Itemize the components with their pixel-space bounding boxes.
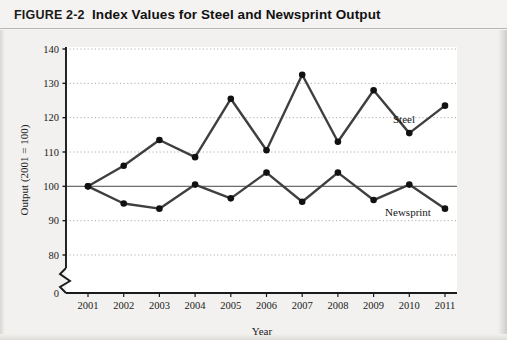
data-point-newsprint-2008	[335, 169, 342, 176]
y-axis-group: 08090100110120130140	[43, 44, 70, 299]
x-tick-label: 2003	[149, 300, 170, 311]
y-tick-label: 100	[43, 181, 59, 192]
data-point-steel-2005	[228, 95, 235, 102]
data-point-newsprint-2009	[370, 197, 377, 204]
figure-page: FIGURE 2-2 Index Values for Steel and Ne…	[0, 0, 507, 340]
y-axis-title: Output (2001 = 100)	[18, 124, 31, 215]
data-point-steel-2008	[335, 138, 342, 145]
title-divider	[0, 28, 507, 29]
figure-title-text: Index Values for Steel and Newsprint Out…	[92, 7, 381, 22]
x-tick-label: 2010	[399, 300, 420, 311]
x-axis-title: Year	[252, 325, 273, 337]
data-point-steel-2011	[442, 102, 449, 109]
x-tick-label: 2002	[113, 300, 134, 311]
x-axis-group: 2001200220032004200520062007200820092010…	[66, 293, 457, 311]
x-tick-label: 2001	[78, 300, 99, 311]
y-tick-label: 110	[44, 147, 59, 158]
x-tick-label: 2004	[185, 300, 207, 311]
series-group	[85, 71, 449, 212]
line-chart: 08090100110120130140 2001200220032004200…	[0, 30, 507, 340]
x-tick-label: 2011	[435, 300, 456, 311]
axis-break-symbol	[60, 268, 70, 293]
data-point-steel-2003	[156, 137, 163, 144]
data-point-steel-2007	[299, 71, 306, 78]
x-tick-label: 2005	[220, 300, 241, 311]
data-point-newsprint-2004	[192, 181, 199, 188]
y-tick-label: 130	[43, 78, 59, 89]
data-point-steel-2009	[370, 87, 377, 94]
x-tick-label: 2007	[292, 300, 313, 311]
data-point-steel-2004	[192, 154, 199, 161]
series-label-newsprint: Newsprint	[385, 206, 431, 218]
x-tick-label: 2008	[327, 300, 348, 311]
data-point-newsprint-2006	[263, 169, 270, 176]
data-point-newsprint-2001	[85, 183, 92, 190]
data-point-newsprint-2010	[406, 181, 413, 188]
y-tick-label: 90	[49, 215, 60, 226]
y-tick-label: 0	[54, 288, 59, 299]
series-label-steel: Steel	[393, 113, 415, 125]
data-point-steel-2006	[263, 147, 270, 154]
y-tick-label: 80	[49, 250, 60, 261]
series-line-newsprint	[88, 173, 445, 209]
data-point-steel-2010	[406, 130, 413, 137]
data-point-newsprint-2003	[156, 205, 163, 212]
figure-number-label: FIGURE 2-2	[14, 8, 85, 22]
data-point-newsprint-2011	[442, 205, 449, 212]
y-tick-label: 120	[43, 112, 59, 123]
data-point-steel-2002	[120, 162, 127, 169]
x-tick-label: 2009	[363, 300, 384, 311]
chart-container: 08090100110120130140 2001200220032004200…	[0, 30, 507, 340]
figure-title-band: FIGURE 2-2 Index Values for Steel and Ne…	[0, 0, 507, 30]
gridlines-group	[66, 49, 457, 255]
data-point-newsprint-2002	[120, 200, 127, 207]
y-tick-label: 140	[43, 44, 59, 55]
x-tick-label: 2006	[256, 300, 277, 311]
data-point-newsprint-2005	[228, 195, 235, 202]
data-point-newsprint-2007	[299, 198, 306, 205]
